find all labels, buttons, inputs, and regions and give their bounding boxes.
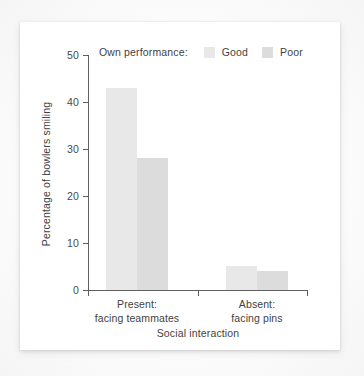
figure-page: Own performance: Good Poor 0 10 20 30 40… xyxy=(0,0,364,376)
figure-card xyxy=(20,22,340,350)
